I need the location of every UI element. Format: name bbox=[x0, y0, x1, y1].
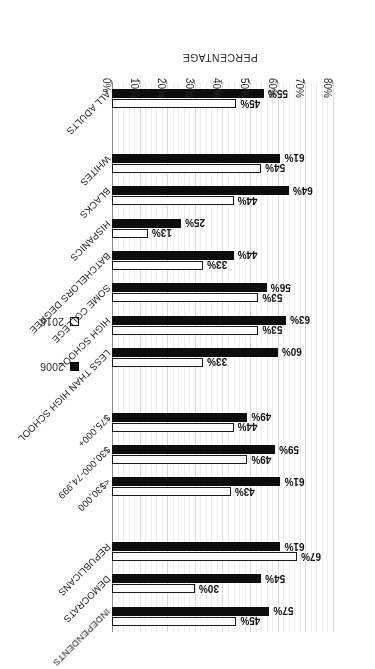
bar-2006 bbox=[112, 154, 281, 163]
bar-value-label: 13% bbox=[152, 228, 172, 239]
bar-value-label: 44% bbox=[238, 422, 258, 433]
bar-2016 bbox=[112, 423, 234, 432]
bar-value-label: 59% bbox=[279, 444, 299, 455]
bar-2006 bbox=[112, 219, 181, 228]
bar-2006 bbox=[112, 283, 267, 292]
category-label: SOME COLLEGE bbox=[50, 283, 113, 346]
bar-2006 bbox=[112, 316, 286, 325]
category-label: WHITES bbox=[78, 154, 113, 189]
bar-2006 bbox=[112, 574, 261, 583]
bar-value-label: 61% bbox=[285, 476, 305, 487]
bar-value-label: 44% bbox=[238, 195, 258, 206]
bar-2006 bbox=[112, 542, 281, 551]
bar-value-label: 61% bbox=[285, 153, 305, 164]
bar-2016 bbox=[112, 552, 297, 561]
bar-value-label: 33% bbox=[207, 260, 227, 271]
bar-2016 bbox=[112, 196, 234, 205]
bar-2016 bbox=[112, 229, 148, 238]
bar-2016 bbox=[112, 99, 236, 108]
bar-2016 bbox=[112, 261, 203, 270]
bar-2016 bbox=[112, 617, 236, 626]
bar-value-label: 25% bbox=[185, 218, 205, 229]
bar-2006 bbox=[112, 413, 247, 422]
bar-value-label: 67% bbox=[301, 551, 321, 562]
bar-2006 bbox=[112, 607, 269, 616]
bar-series-container: 45%55%54%61%44%64%13%25%33%44%53%56%53%6… bbox=[112, 82, 333, 632]
bar-value-label: 57% bbox=[273, 606, 293, 617]
bar-value-label: 30% bbox=[199, 583, 219, 594]
bar-value-label: 49% bbox=[251, 454, 271, 465]
gridline-major bbox=[333, 82, 334, 632]
x-axis-title: PERCENTAGE bbox=[65, 52, 375, 64]
bar-value-label: 43% bbox=[235, 486, 255, 497]
category-label: $75,000+ bbox=[76, 412, 113, 449]
bar-value-label: 53% bbox=[262, 325, 282, 336]
x-tick-label: 80% bbox=[322, 78, 333, 98]
x-tick-label: 70% bbox=[294, 78, 305, 98]
bar-2016 bbox=[112, 358, 203, 367]
bar-value-label: 54% bbox=[265, 163, 285, 174]
category-label: $30,000-74,999 bbox=[56, 445, 113, 502]
bar-2016 bbox=[112, 487, 231, 496]
bar-value-label: 54% bbox=[265, 573, 285, 584]
bar-2016 bbox=[112, 584, 195, 593]
x-tick-label: 30% bbox=[184, 78, 195, 98]
x-tick-label: 60% bbox=[267, 78, 278, 98]
bar-2006 bbox=[112, 348, 278, 357]
x-tick-label: 20% bbox=[156, 78, 167, 98]
bar-value-label: 60% bbox=[282, 347, 302, 358]
bar-value-label: 33% bbox=[207, 357, 227, 368]
bar-value-label: 63% bbox=[290, 315, 310, 326]
bar-value-label: 53% bbox=[262, 292, 282, 303]
bar-value-label: 64% bbox=[293, 185, 313, 196]
bar-2016 bbox=[112, 293, 258, 302]
bar-2016 bbox=[112, 326, 258, 335]
bar-value-label: 61% bbox=[285, 541, 305, 552]
bar-2006 bbox=[112, 186, 289, 195]
bar-value-label: 45% bbox=[240, 98, 260, 109]
category-label: BLACKS bbox=[78, 186, 113, 221]
category-label: REPUBLICANS bbox=[56, 542, 113, 599]
bar-2006 bbox=[112, 251, 234, 260]
category-label: INDEPENDENTS bbox=[51, 606, 113, 668]
category-axis-labels: ALL ADULTSWHITESBLACKSHISPANICSBATCHELOR… bbox=[0, 48, 109, 648]
bar-2006 bbox=[112, 445, 275, 454]
bar-value-label: 49% bbox=[251, 412, 271, 423]
x-tick-label: 50% bbox=[239, 78, 250, 98]
category-label: ALL ADULTS bbox=[64, 89, 112, 137]
bar-value-label: 44% bbox=[238, 250, 258, 261]
bar-2006 bbox=[112, 477, 281, 486]
x-tick-label: 10% bbox=[129, 78, 140, 98]
x-tick-label: 40% bbox=[212, 78, 223, 98]
bar-2016 bbox=[112, 164, 261, 173]
bar-2016 bbox=[112, 455, 247, 464]
plot-area: 45%55%54%61%44%64%13%25%33%44%53%56%53%6… bbox=[112, 82, 333, 632]
bar-value-label: 45% bbox=[240, 616, 260, 627]
bar-value-label: 56% bbox=[271, 282, 291, 293]
